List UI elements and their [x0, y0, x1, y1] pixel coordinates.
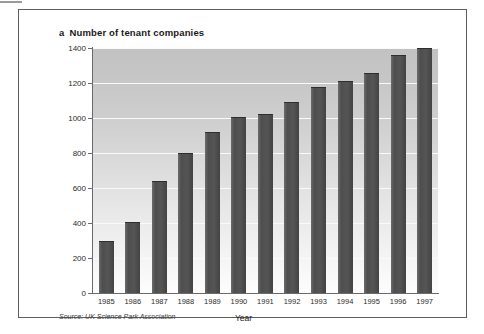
chart-title-text: Number of tenant companies — [69, 27, 204, 38]
source-note: Source: UK Science Park Association — [59, 313, 175, 320]
y-axis-line — [92, 47, 93, 294]
x-axis-tick-label: 1987 — [146, 297, 173, 309]
y-axis-tick-label: 1000 — [68, 114, 86, 123]
bar — [258, 114, 273, 293]
bar — [284, 102, 299, 293]
bar — [99, 241, 114, 294]
bar — [311, 87, 326, 293]
y-axis-tick-label: 800 — [73, 149, 86, 158]
x-axis-tick-label: 1990 — [226, 297, 253, 309]
y-axis-tick-label: 200 — [73, 254, 86, 263]
x-axis-tick-label: 1991 — [252, 297, 279, 309]
x-axis-tick-label: 1995 — [358, 297, 385, 309]
y-axis-tick-label: 1400 — [68, 44, 86, 53]
x-axis-tick-label: 1996 — [385, 297, 412, 309]
x-axis-tick-label: 1986 — [120, 297, 147, 309]
y-axis-tick-label: 600 — [73, 184, 86, 193]
scan-edge-artifact — [0, 0, 484, 5]
x-axis-line — [92, 293, 439, 294]
bar-series — [93, 48, 438, 293]
x-axis-tick-label: 1988 — [173, 297, 200, 309]
y-axis-tick-label: 400 — [73, 219, 86, 228]
bar — [231, 117, 246, 293]
bar — [391, 55, 406, 293]
bar — [205, 132, 220, 293]
x-axis-tick-labels: 1985198619871988198919901991199219931994… — [93, 297, 438, 309]
figure-frame: aNumber of tenant companies 020040060080… — [18, 9, 467, 318]
y-axis-tick-label: 0 — [82, 289, 86, 298]
x-axis-tick-label: 1994 — [332, 297, 359, 309]
x-axis-tick-label: 1985 — [93, 297, 120, 309]
x-axis-tick-label: 1993 — [305, 297, 332, 309]
bar — [152, 181, 167, 293]
bar — [417, 48, 432, 293]
page-title: aNumber of tenant companies — [59, 27, 204, 38]
y-axis-tick-label: 1200 — [68, 79, 86, 88]
x-axis-tick-label: 1992 — [279, 297, 306, 309]
x-axis-tick-label: 1989 — [199, 297, 226, 309]
panel-letter: a — [59, 27, 64, 38]
plot-area — [93, 48, 438, 293]
x-axis-tick-label: 1997 — [411, 297, 438, 309]
bar — [178, 153, 193, 293]
bar — [338, 81, 353, 293]
bar — [364, 73, 379, 294]
source-prefix: Source: — [59, 313, 83, 320]
y-axis-scale: 0200400600800100012001400 — [19, 48, 92, 293]
source-text: UK Science Park Association — [85, 313, 175, 320]
bar — [125, 222, 140, 293]
